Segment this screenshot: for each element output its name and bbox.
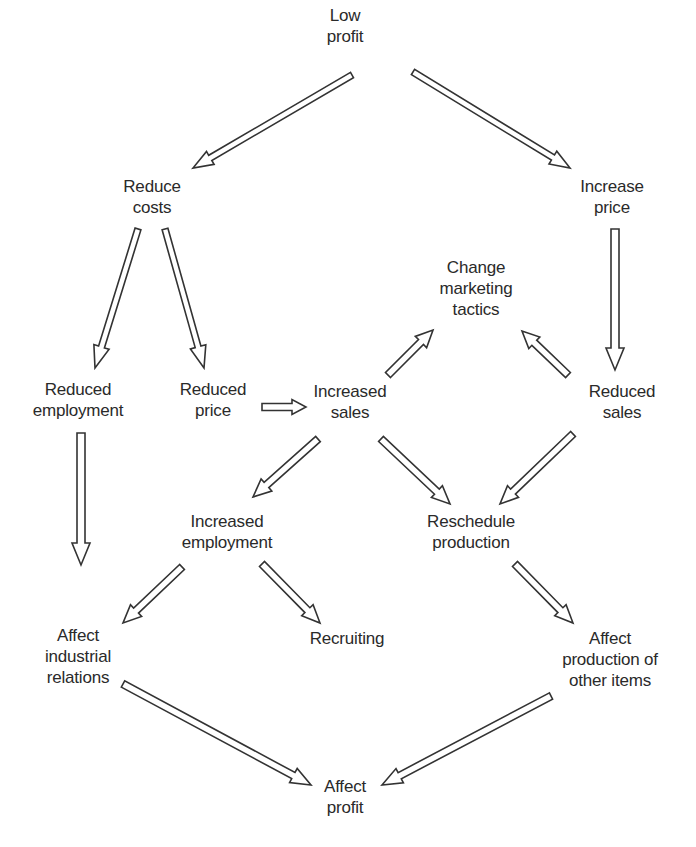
node-label-line: Recruiting <box>310 628 385 649</box>
node-label-line: Low <box>327 5 364 26</box>
node-label-line: Reduced <box>589 381 656 402</box>
node-label-line: Reschedule <box>427 511 515 532</box>
node-reduced-price: Reducedprice <box>180 379 247 421</box>
node-reschedule-production: Rescheduleproduction <box>427 511 515 553</box>
arrow-layer <box>0 0 696 847</box>
node-increased-sales: Increasedsales <box>314 381 387 423</box>
block-arrow-icon <box>193 72 354 168</box>
node-increase-price: Increaseprice <box>580 176 644 218</box>
node-label-line: production <box>427 532 515 553</box>
node-affect-industrial-relations: Affectindustrialrelations <box>45 625 111 688</box>
block-arrow-icon <box>262 400 306 415</box>
node-label-line: Reduced <box>180 379 247 400</box>
block-arrow-icon <box>121 681 311 785</box>
node-reduced-sales: Reducedsales <box>589 381 656 423</box>
node-label-line: costs <box>123 197 180 218</box>
node-label-line: employment <box>182 532 273 553</box>
node-change-marketing-tactics: Changemarketingtactics <box>440 257 513 320</box>
block-arrow-icon <box>522 331 570 378</box>
node-label-line: sales <box>314 402 387 423</box>
block-arrow-icon <box>379 437 450 505</box>
block-arrow-icon <box>260 562 321 624</box>
node-label-line: Reduced <box>33 379 124 400</box>
node-label-line: other items <box>562 670 658 691</box>
node-label-line: profit <box>327 26 364 47</box>
node-label-line: price <box>180 400 247 421</box>
node-label-line: Increased <box>182 511 273 532</box>
node-label-line: sales <box>589 402 656 423</box>
node-affect-production-other-items: Affectproduction ofother items <box>562 628 658 691</box>
block-arrow-icon <box>123 565 184 624</box>
block-arrow-icon <box>94 228 141 368</box>
node-reduce-costs: Reducecosts <box>123 176 180 218</box>
node-label-line: relations <box>45 667 111 688</box>
node-increased-employment: Increasedemployment <box>182 511 273 553</box>
node-label-line: Affect <box>562 628 658 649</box>
block-arrow-icon <box>500 432 575 505</box>
block-arrow-icon <box>513 562 574 624</box>
node-label-line: marketing <box>440 278 513 299</box>
node-label-line: Reduce <box>123 176 180 197</box>
block-arrow-icon <box>411 69 570 168</box>
node-low-profit: Lowprofit <box>327 5 364 47</box>
node-label-line: Increase <box>580 176 644 197</box>
block-arrow-icon <box>382 693 553 785</box>
node-label-line: Affect <box>45 625 111 646</box>
node-label-line: Increased <box>314 381 387 402</box>
node-affect-profit: Affectprofit <box>324 776 366 818</box>
node-reduced-employment: Reducedemployment <box>33 379 124 421</box>
cause-effect-diagram: Lowprofit Reducecosts Increaseprice Chan… <box>0 0 696 847</box>
node-label-line: price <box>580 197 644 218</box>
node-label-line: Change <box>440 257 513 278</box>
block-arrow-icon <box>606 229 624 370</box>
node-label-line: Affect <box>324 776 366 797</box>
block-arrow-icon <box>253 436 320 497</box>
block-arrow-icon <box>72 433 90 565</box>
block-arrow-icon <box>386 330 434 378</box>
node-label-line: employment <box>33 400 124 421</box>
block-arrow-icon <box>162 228 206 368</box>
node-label-line: profit <box>324 797 366 818</box>
node-label-line: tactics <box>440 299 513 320</box>
node-recruiting: Recruiting <box>310 628 385 649</box>
node-label-line: production of <box>562 649 658 670</box>
node-label-line: industrial <box>45 646 111 667</box>
